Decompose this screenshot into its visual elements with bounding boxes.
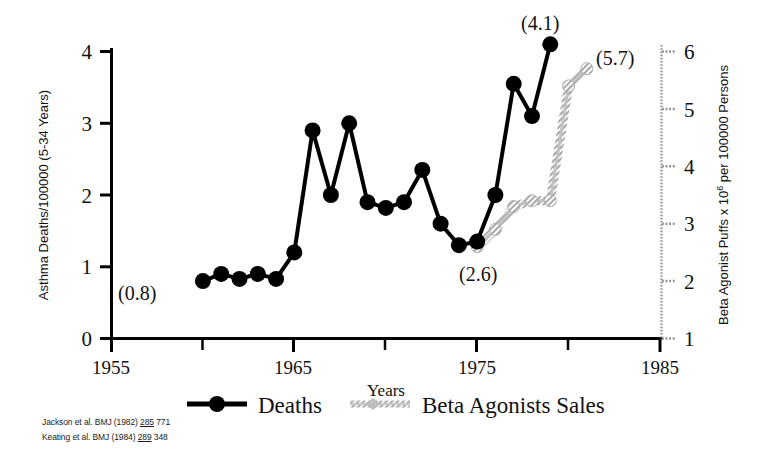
data-point-deaths xyxy=(268,271,284,287)
data-point-deaths xyxy=(232,271,248,287)
x-tick-label-1975: 1975 xyxy=(458,357,496,378)
data-point-beta-agonists-sales xyxy=(544,195,556,207)
data-point-deaths xyxy=(487,187,503,203)
data-point-deaths xyxy=(451,237,467,253)
x-tick-label-1985: 1985 xyxy=(641,357,679,378)
data-point-deaths xyxy=(323,187,339,203)
y-tick-label-3: 3 xyxy=(82,112,93,136)
data-point-deaths xyxy=(341,115,357,131)
svg-text:Beta Agonist Puffs x 106 per: Beta Agonist Puffs x 106 per 100000 Pers… xyxy=(715,65,731,325)
data-point-beta-agonists-sales xyxy=(526,195,538,207)
x-axis xyxy=(110,338,662,352)
data-point-deaths xyxy=(360,194,376,210)
x-tick-label-1965: 1965 xyxy=(274,357,312,378)
y-tick-label-1: 1 xyxy=(82,255,93,279)
legend-item-deaths: Deaths xyxy=(187,393,322,418)
y2-tick-label-1: 1 xyxy=(684,327,695,351)
legend-label-sales: Beta Agonists Sales xyxy=(422,393,605,418)
data-point-deaths xyxy=(286,244,302,260)
y2-tick-label-5: 5 xyxy=(684,98,695,122)
right-axis-title: Beta Agonist Puffs x 10 xyxy=(716,191,731,325)
citation-keating: Keating et al. BMJ (1984) 289 348 xyxy=(42,432,168,442)
x-tick-label-1955: 1955 xyxy=(92,357,130,378)
data-point-deaths xyxy=(524,108,540,124)
right-axis-title-group: Beta Agonist Puffs x 106 per 100000 Pers… xyxy=(715,65,731,325)
data-point-deaths xyxy=(506,76,522,92)
y-tick-label-2: 2 xyxy=(82,184,93,208)
y-tick-label-4: 4 xyxy=(82,40,93,64)
annotation-2-6: (2.6) xyxy=(459,263,497,286)
citation-jackson-pages: 771 xyxy=(154,417,170,427)
series-beta-agonists-sales xyxy=(471,63,593,253)
y-tick-label-0: 0 xyxy=(82,327,93,351)
data-point-deaths xyxy=(195,273,211,289)
annotation-5-7: (5.7) xyxy=(596,47,634,70)
annotation-4-1: (4.1) xyxy=(521,12,559,35)
data-point-beta-agonists-sales xyxy=(489,223,501,235)
data-point-deaths xyxy=(250,266,266,282)
annotation-0-8: (0.8) xyxy=(118,282,156,305)
citation-keating-author: Keating et al. BMJ (1984) xyxy=(42,432,138,442)
citation-jackson: Jackson et al. BMJ (1982) 285 771 xyxy=(42,417,170,427)
x-axis-title: Years xyxy=(367,381,405,400)
data-point-beta-agonists-sales xyxy=(508,201,520,213)
y2-tick-label-6: 6 xyxy=(684,40,695,64)
data-point-deaths xyxy=(433,216,449,232)
data-point-deaths xyxy=(414,162,430,178)
citation-keating-volume: 289 xyxy=(138,432,152,442)
legend-label-deaths: Deaths xyxy=(258,393,322,418)
data-point-deaths xyxy=(542,36,558,52)
data-point-deaths xyxy=(213,266,229,282)
data-point-beta-agonists-sales xyxy=(581,63,593,75)
chart-svg: 4 3 2 1 0 Asthma Deaths/100000 (5-34 Yea… xyxy=(0,0,764,467)
data-point-deaths xyxy=(469,234,485,250)
citation-keating-pages: 348 xyxy=(152,432,168,442)
y2-tick-label-3: 3 xyxy=(684,212,695,236)
data-point-deaths xyxy=(305,122,321,138)
series-deaths xyxy=(195,36,558,289)
data-point-deaths xyxy=(396,194,412,210)
right-axis xyxy=(662,45,677,340)
citation-jackson-author: Jackson et al. BMJ (1982) xyxy=(42,417,140,427)
right-axis-title-tail: per 100000 Persons xyxy=(716,65,731,186)
y2-tick-label-4: 4 xyxy=(684,155,695,179)
y2-tick-label-2: 2 xyxy=(684,270,695,294)
asthma-deaths-chart-figure: 4 3 2 1 0 Asthma Deaths/100000 (5-34 Yea… xyxy=(0,0,764,467)
data-point-beta-agonists-sales xyxy=(563,80,575,92)
left-axis-title: Asthma Deaths/100000 (5-34 Years) xyxy=(36,90,51,300)
data-point-deaths xyxy=(378,200,394,216)
left-axis xyxy=(100,48,112,340)
citation-jackson-volume: 285 xyxy=(140,417,154,427)
